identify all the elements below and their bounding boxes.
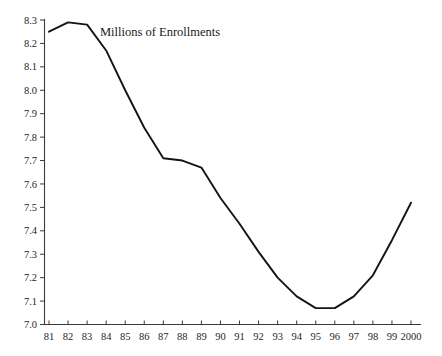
x-tick-label: 92 bbox=[253, 331, 264, 342]
x-tick-label: 83 bbox=[82, 331, 93, 342]
x-tick-label: 93 bbox=[272, 331, 283, 342]
x-tick-label: 85 bbox=[120, 331, 131, 342]
y-tick-label: 7.3 bbox=[24, 249, 37, 260]
x-tick-label: 86 bbox=[139, 331, 150, 342]
x-tick-label: 81 bbox=[44, 331, 55, 342]
chart-title: Millions of Enrollments bbox=[100, 25, 220, 39]
x-tick-label: 99 bbox=[387, 331, 398, 342]
y-tick-label: 7.8 bbox=[24, 132, 37, 143]
x-tick-label: 98 bbox=[368, 331, 379, 342]
enrollments-series-line bbox=[49, 22, 411, 308]
chart-figure: 7.07.17.27.37.47.57.67.77.87.98.08.18.28… bbox=[0, 0, 442, 356]
x-tick-label: 95 bbox=[310, 331, 321, 342]
y-tick-label: 7.1 bbox=[24, 296, 37, 307]
x-tick-label: 96 bbox=[330, 331, 341, 342]
x-axis-group: 8182838485868788899091929394959697989920… bbox=[44, 321, 422, 343]
line-chart-plot: 7.07.17.27.37.47.57.67.77.87.98.08.18.28… bbox=[0, 0, 442, 356]
x-tick-label: 97 bbox=[349, 331, 360, 342]
x-tick-label: 88 bbox=[177, 331, 188, 342]
x-tick-label: 94 bbox=[291, 331, 302, 342]
x-tick-label: 89 bbox=[196, 331, 207, 342]
y-tick-label: 7.7 bbox=[24, 155, 37, 166]
y-axis-group: 7.07.17.27.37.47.57.67.77.87.98.08.18.28… bbox=[24, 15, 45, 331]
x-tick-label: 84 bbox=[101, 331, 112, 342]
y-tick-label: 7.6 bbox=[24, 179, 37, 190]
y-tick-label: 7.5 bbox=[24, 202, 37, 213]
y-tick-label: 8.3 bbox=[24, 15, 37, 26]
x-tick-label: 2000 bbox=[401, 331, 422, 342]
y-tick-label: 7.2 bbox=[24, 272, 37, 283]
y-tick-marks bbox=[40, 20, 45, 325]
x-tick-labels: 8182838485868788899091929394959697989920… bbox=[44, 331, 422, 342]
y-tick-label: 8.2 bbox=[24, 38, 37, 49]
x-tick-label: 87 bbox=[158, 331, 169, 342]
x-tick-marks bbox=[49, 321, 411, 325]
y-tick-label: 8.1 bbox=[24, 61, 37, 72]
y-tick-labels: 7.07.17.27.37.47.57.67.77.87.98.08.18.28… bbox=[24, 15, 38, 331]
y-tick-label: 7.4 bbox=[24, 225, 38, 236]
x-tick-label: 82 bbox=[63, 331, 74, 342]
y-tick-label: 7.0 bbox=[24, 319, 37, 330]
y-tick-label: 8.0 bbox=[24, 85, 37, 96]
y-tick-label: 7.9 bbox=[24, 108, 37, 119]
x-tick-label: 91 bbox=[234, 331, 245, 342]
x-tick-label: 90 bbox=[215, 331, 226, 342]
